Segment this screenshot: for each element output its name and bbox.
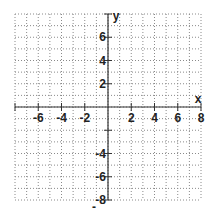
footer-mark: - (92, 200, 96, 212)
tick-labels: -6-4-22468642-4-6-8 (33, 30, 205, 207)
y-tick-label: 4 (99, 54, 106, 68)
coordinate-plane: -6-4-22468642-4-6-8 x y - (0, 0, 211, 212)
y-tick-label: -4 (95, 147, 106, 161)
x-tick-label: -4 (56, 111, 67, 125)
y-tick-label: -6 (95, 170, 106, 184)
y-tick-label: 2 (99, 77, 106, 91)
x-tick-label: -2 (79, 111, 90, 125)
axes (15, 14, 201, 200)
x-axis-label: x (195, 92, 202, 106)
x-tick-label: 4 (151, 111, 158, 125)
y-tick-label: 6 (99, 30, 106, 44)
y-axis-label: y (113, 9, 120, 23)
x-tick-label: 6 (174, 111, 181, 125)
y-tick-label: -8 (95, 193, 106, 207)
x-tick-label: 8 (198, 111, 205, 125)
x-tick-label: -6 (33, 111, 44, 125)
x-tick-label: 2 (128, 111, 135, 125)
